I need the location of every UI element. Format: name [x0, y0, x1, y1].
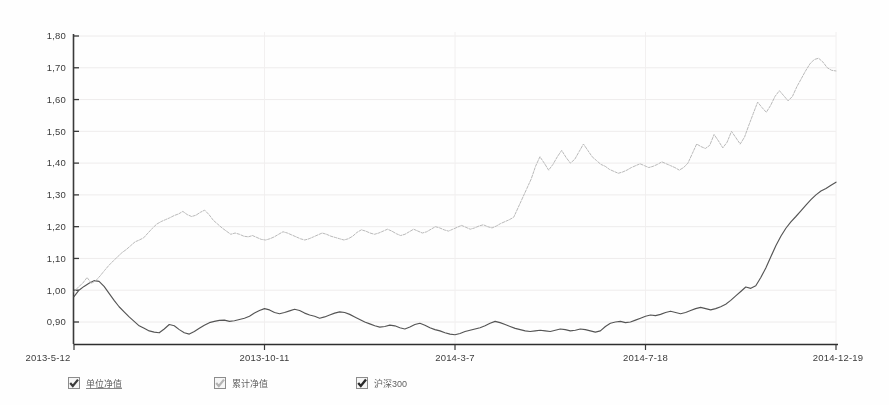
fund-performance-line-chart: 0,901,001,101,201,301,401,501,601,701,80… — [0, 0, 889, 362]
legend-checkbox-unit-nav[interactable] — [68, 377, 80, 389]
y-tick-label: 1,10 — [47, 253, 66, 264]
y-axis-tick-labels: 0,901,001,101,201,301,401,501,601,701,80 — [47, 30, 66, 327]
y-tick-label: 1,70 — [47, 62, 66, 73]
x-axis-tick-labels: 2013-5-122013-10-112014-3-72014-7-182014… — [25, 352, 863, 362]
legend-label-cumulative-nav: 累计净值 — [232, 377, 268, 390]
y-tick-label: 1,40 — [47, 157, 66, 168]
x-tick-label: 2014-3-7 — [435, 352, 475, 362]
legend-item-csi300[interactable]: 沪深300 — [356, 377, 407, 390]
y-tick-label: 1,00 — [47, 285, 66, 296]
x-tick-label: 2014-7-18 — [623, 352, 668, 362]
y-tick-label: 1,20 — [47, 221, 66, 232]
y-tick-label: 1,50 — [47, 126, 66, 137]
legend-checkbox-csi300[interactable] — [356, 377, 368, 389]
y-tick-label: 1,60 — [47, 94, 66, 105]
x-tick-label: 2014-12-19 — [813, 352, 864, 362]
legend-label-csi300: 沪深300 — [374, 377, 407, 390]
y-tick-label: 1,80 — [47, 30, 66, 41]
chart-plot-area: 0,901,001,101,201,301,401,501,601,701,80… — [0, 0, 889, 362]
y-tick-label: 0,90 — [47, 316, 66, 327]
chart-legend: 单位净值 累计净值 沪深300 — [0, 368, 889, 398]
legend-item-unit-nav[interactable]: 单位净值 — [68, 377, 122, 390]
y-tick-label: 1,30 — [47, 189, 66, 200]
legend-item-cumulative-nav[interactable]: 累计净值 — [214, 377, 268, 390]
vertical-gridlines — [265, 32, 837, 344]
legend-label-unit-nav: 单位净值 — [86, 377, 122, 390]
x-tick-label: 2013-5-12 — [25, 352, 70, 362]
legend-checkbox-cumulative-nav[interactable] — [214, 377, 226, 389]
x-tick-label: 2013-10-11 — [240, 352, 290, 362]
chart-page: 0,901,001,101,201,301,401,501,601,701,80… — [0, 0, 889, 405]
y-axis-ticks — [74, 36, 80, 322]
